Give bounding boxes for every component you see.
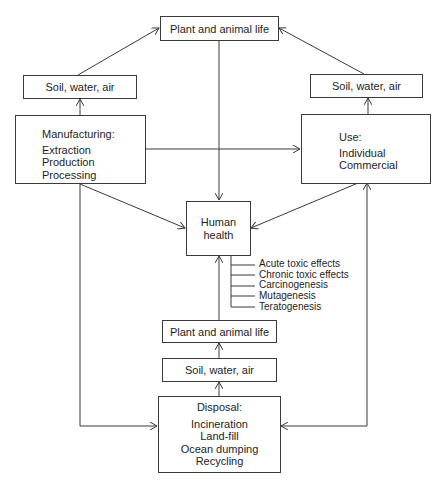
soil-left-box: Soil, water, air — [23, 75, 137, 99]
human-health-box: Human health — [186, 201, 251, 256]
manufacturing-item: Extraction — [42, 144, 145, 157]
effect-item: Teratogenesis — [259, 302, 349, 313]
manufacturing-box: Manufacturing: Extraction Production Pro… — [15, 115, 146, 184]
soil-bottom-box: Soil, water, air — [162, 358, 277, 382]
soil-left-label: Soil, water, air — [45, 81, 114, 93]
disposal-item: Land-fill — [200, 430, 239, 443]
disposal-item: Ocean dumping — [181, 443, 259, 456]
disposal-item: Recycling — [196, 455, 244, 468]
soil-right-label: Soil, water, air — [332, 80, 401, 92]
use-box: Use: Individual Commercial — [301, 114, 431, 184]
bottom-plant-label: Plant and animal life — [170, 326, 269, 338]
manufacturing-item: Processing — [42, 169, 145, 182]
manufacturing-item: Production — [42, 156, 145, 169]
soil-right-box: Soil, water, air — [310, 74, 423, 98]
human-health-line2: health — [204, 229, 234, 242]
use-title: Use: — [339, 131, 430, 144]
top-plant-label: Plant and animal life — [170, 23, 269, 35]
soil-bottom-label: Soil, water, air — [185, 364, 254, 376]
bottom-plant-animal-life-box: Plant and animal life — [162, 320, 277, 343]
use-item: Individual — [339, 147, 430, 160]
health-effects-list: Acute toxic effects Chronic toxic effect… — [259, 259, 349, 313]
disposal-title: Disposal: — [197, 401, 242, 414]
human-health-line1: Human — [201, 216, 236, 229]
disposal-item: Incineration — [191, 418, 248, 431]
disposal-box: Disposal: Incineration Land-fill Ocean d… — [158, 396, 281, 473]
use-item: Commercial — [339, 159, 430, 172]
manufacturing-title: Manufacturing: — [42, 128, 145, 141]
top-plant-animal-life-box: Plant and animal life — [160, 16, 279, 41]
